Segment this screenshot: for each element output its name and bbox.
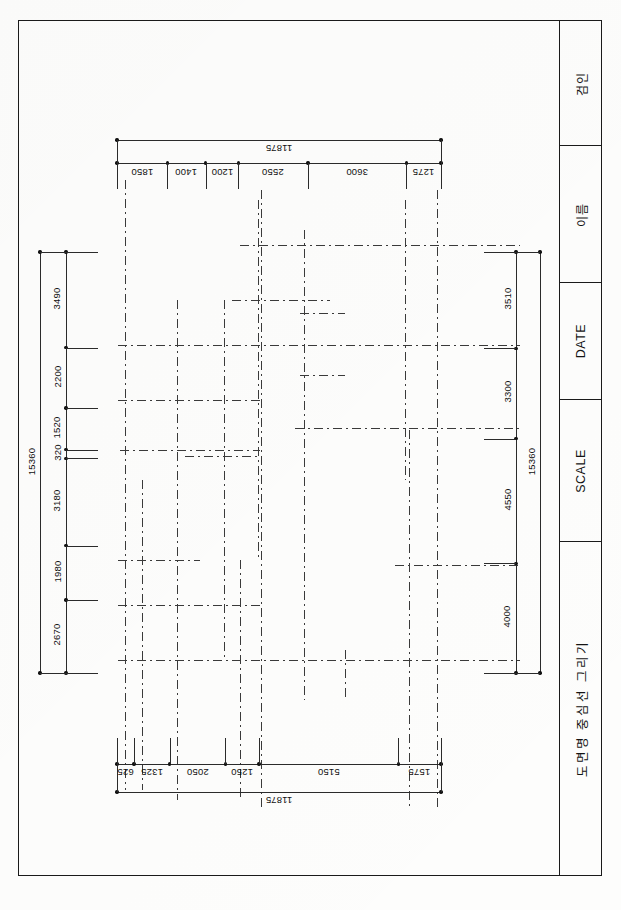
dimension-value: 625 bbox=[117, 767, 134, 778]
top-total-dimension-line bbox=[117, 140, 441, 141]
dimension-value: 3510 bbox=[501, 250, 512, 346]
title-block: 검인이름DATESCALE도면명 중심선 그리기 bbox=[559, 21, 601, 875]
dimension-extension-line bbox=[40, 673, 66, 674]
dimension-extension-line bbox=[398, 738, 399, 764]
title-block-cell-scale[interactable]: SCALE bbox=[560, 400, 602, 542]
centerline-horizontal bbox=[300, 375, 345, 376]
centerline-vertical bbox=[258, 200, 259, 560]
dimension-extension-line bbox=[66, 546, 98, 547]
dimension-value: 11875 bbox=[117, 143, 441, 154]
dimension-value: 1400 bbox=[167, 167, 205, 178]
dimension-value: 1980 bbox=[51, 544, 62, 598]
dimension-value: 11875 bbox=[117, 795, 441, 806]
dimension-extension-line bbox=[170, 738, 171, 764]
dimension-extension-line bbox=[441, 140, 442, 163]
dimension-extension-line bbox=[66, 408, 98, 409]
dimension-value: 1575 bbox=[398, 767, 441, 778]
centerline-vertical bbox=[177, 300, 178, 800]
dimension-value: 15360 bbox=[26, 251, 37, 672]
dimension-value: 1850 bbox=[117, 167, 167, 178]
centerline-vertical bbox=[125, 180, 126, 790]
dimension-value: 1325 bbox=[134, 767, 170, 778]
dimension-value: 3600 bbox=[308, 167, 406, 178]
dimension-extension-line bbox=[66, 673, 98, 674]
title-block-cell-drawing-title[interactable]: 도면명 중심선 그리기 bbox=[560, 542, 602, 875]
dimension-extension-line bbox=[117, 738, 118, 764]
title-block-label-date: DATE bbox=[574, 324, 588, 358]
title-block-cell-approval[interactable]: 검인 bbox=[560, 21, 602, 146]
dimension-extension-line bbox=[134, 738, 135, 764]
dimension-extension-line bbox=[66, 458, 98, 459]
centerline-vertical bbox=[224, 300, 225, 660]
left-dimension-line bbox=[66, 252, 67, 673]
title-block-cell-date[interactable]: DATE bbox=[560, 283, 602, 400]
title-block-label-name: 이름 bbox=[573, 202, 590, 226]
dimension-value: 2670 bbox=[51, 598, 62, 671]
dimension-value: 4550 bbox=[501, 437, 512, 562]
dimension-extension-line bbox=[66, 600, 98, 601]
title-block-label-scale: SCALE bbox=[574, 449, 588, 493]
centerline-horizontal bbox=[295, 428, 520, 429]
dimension-value: 1200 bbox=[206, 167, 239, 178]
dimension-extension-line bbox=[441, 163, 442, 189]
dimension-value: 2550 bbox=[238, 167, 308, 178]
centerline-vertical bbox=[409, 430, 410, 810]
left-total-dimension-line bbox=[40, 252, 41, 673]
dimension-value: 1275 bbox=[406, 167, 441, 178]
centerline-horizontal bbox=[240, 245, 520, 246]
dimension-value: 3300 bbox=[501, 347, 512, 437]
centerline-vertical bbox=[345, 650, 346, 700]
title-block-label-drawing-title: 도면명 중심선 그리기 bbox=[572, 640, 591, 777]
centerline-horizontal bbox=[118, 345, 520, 346]
dimension-extension-line bbox=[441, 764, 442, 792]
centerline-horizontal bbox=[300, 313, 345, 314]
dimension-extension-line bbox=[516, 673, 540, 674]
dimension-value: 3180 bbox=[51, 457, 62, 544]
centerline-vertical bbox=[142, 480, 143, 790]
centerline-horizontal bbox=[118, 605, 260, 606]
dimension-extension-line bbox=[484, 673, 516, 674]
bottom-dimension-line bbox=[117, 764, 441, 765]
dimension-value: 2050 bbox=[170, 767, 225, 778]
centerline-vertical bbox=[405, 200, 406, 480]
title-block-label-approval: 검인 bbox=[573, 71, 590, 95]
dimension-extension-line bbox=[225, 738, 226, 764]
centerline-horizontal bbox=[232, 300, 330, 301]
dimension-extension-line bbox=[66, 252, 98, 253]
dimension-extension-line bbox=[66, 348, 98, 349]
dimension-value: 4000 bbox=[501, 562, 512, 672]
dimension-extension-line bbox=[66, 450, 98, 451]
dimension-value: 15360 bbox=[526, 251, 537, 672]
centerline-horizontal bbox=[118, 400, 262, 401]
dimension-extension-line bbox=[441, 738, 442, 764]
dimension-extension-line bbox=[259, 738, 260, 764]
drawing-sheet: 1850140012002550360012751187562513252050… bbox=[0, 0, 621, 910]
centerline-horizontal bbox=[118, 560, 200, 561]
title-block-cell-name[interactable]: 이름 bbox=[560, 146, 602, 283]
centerline-vertical bbox=[437, 190, 438, 810]
centerline-horizontal bbox=[185, 456, 262, 457]
right-dimension-line bbox=[516, 252, 517, 673]
right-total-dimension-line bbox=[540, 252, 541, 673]
dimension-value: 3490 bbox=[51, 251, 62, 347]
centerline-vertical bbox=[261, 190, 262, 810]
centerline-horizontal bbox=[118, 660, 520, 661]
dimension-value: 1250 bbox=[225, 767, 259, 778]
bottom-total-dimension-line bbox=[117, 792, 441, 793]
centerline-horizontal bbox=[120, 450, 260, 451]
dimension-value: 5150 bbox=[259, 767, 398, 778]
dimension-value: 2200 bbox=[51, 346, 62, 406]
